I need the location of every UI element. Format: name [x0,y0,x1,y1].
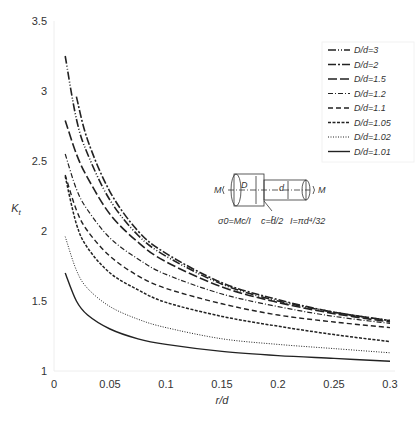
legend: D/d=3D/d=2D/d=1.5D/d=1.2D/d=1.1D/d=1.05D… [322,42,414,162]
svg-text:D: D [241,180,248,190]
y-tick-label: 3 [41,85,47,97]
legend-label: D/d=2 [354,60,378,70]
legend-label: D/d=1.5 [354,74,387,84]
svg-text:M: M [214,185,222,195]
svg-text:c=d/2: c=d/2 [261,216,283,226]
stress-concentration-chart: 11.522.533.5 00.050.10.150.20.250.3 r/d … [0,0,418,421]
x-axis-ticks: 00.050.10.150.20.250.3 [51,378,398,390]
y-tick-label: 2.5 [32,155,47,167]
y-tick-label: 1 [41,365,47,377]
y-axis-ticks: 11.522.533.5 [32,15,47,377]
x-tick-label: 0.15 [211,378,232,390]
x-axis-label: r/d [216,394,230,406]
legend-label: D/d=1.01 [354,147,391,157]
legend-label: D/d=3 [354,45,378,55]
y-tick-label: 1.5 [32,295,47,307]
x-tick-label: 0.05 [99,378,120,390]
legend-label: D/d=1.2 [354,89,386,99]
y-axis-label: Kt [11,202,21,217]
legend-label: D/d=1.1 [354,103,386,113]
curve-d-d-1-2 [65,154,390,323]
svg-text:d: d [279,183,285,193]
y-tick-label: 2 [41,225,47,237]
x-tick-label: 0.1 [158,378,173,390]
legend-label: D/d=1.05 [354,118,392,128]
shaft-diagram [223,174,315,211]
svg-text:I=πd⁴/32: I=πd⁴/32 [290,216,325,226]
x-tick-label: 0 [51,378,57,390]
legend-label: D/d=1.02 [354,132,391,142]
x-tick-label: 0.25 [323,378,344,390]
y-tick-label: 3.5 [32,15,47,27]
x-tick-label: 0.2 [270,378,285,390]
svg-text:σ0=Mc/I: σ0=Mc/I [218,216,251,226]
x-tick-label: 0.3 [382,378,397,390]
svg-text:M: M [318,185,326,195]
